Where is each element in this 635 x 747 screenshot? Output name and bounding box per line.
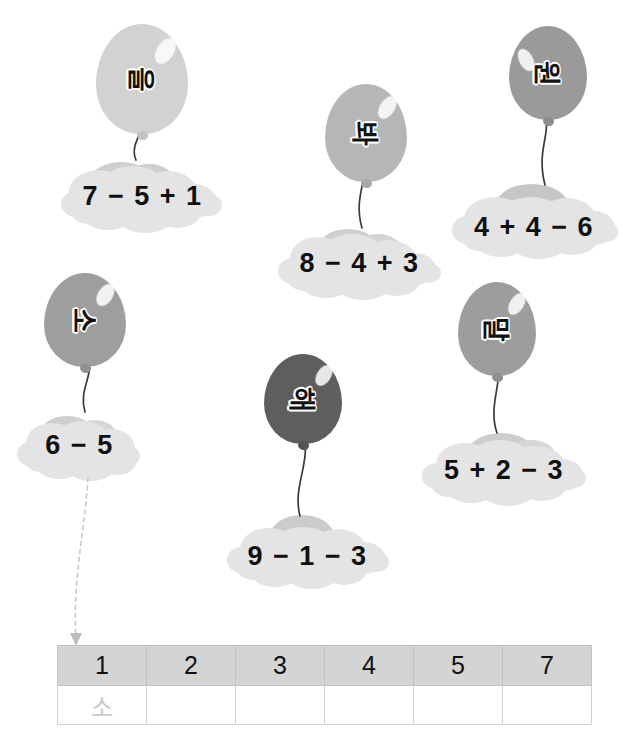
answer-header-cell-6: 7 bbox=[503, 646, 592, 686]
balloon-syllable-hae: 해 bbox=[284, 360, 323, 438]
balloon-knot bbox=[297, 440, 309, 450]
cloud-equation-6-text: 5 + 2 − 3 bbox=[421, 454, 587, 485]
cloud-equation-4-text: 6 − 5 bbox=[19, 430, 140, 461]
balloon-eul[interactable]: 을 bbox=[96, 24, 188, 134]
cloud-equation-2: 8 − 4 + 3 bbox=[278, 225, 441, 301]
answer-cell-1[interactable]: 소 bbox=[58, 686, 147, 725]
balloon-knot bbox=[542, 116, 554, 126]
cloud-equation-1-text: 7 − 5 + 1 bbox=[63, 181, 222, 212]
answer-header-cell-2: 2 bbox=[147, 646, 236, 686]
answer-table-input-row: 소 bbox=[58, 686, 592, 725]
balloon-knot bbox=[79, 363, 91, 373]
balloon-so[interactable]: 소 bbox=[44, 273, 126, 367]
answer-arrow bbox=[70, 478, 88, 646]
cloud-equation-5: 9 − 1 − 3 bbox=[227, 512, 388, 590]
balloon-syllable-mal: 말 bbox=[478, 290, 517, 368]
worksheet-canvas: 7 − 5 + 1 8 − 4 + 3 bbox=[0, 0, 635, 747]
answer-header-cell-4: 4 bbox=[325, 646, 414, 686]
cloud-equation-5-text: 9 − 1 − 3 bbox=[227, 540, 388, 571]
balloon-won[interactable]: 원 bbox=[509, 26, 587, 120]
answer-cell-2[interactable] bbox=[147, 686, 236, 725]
cloud-equation-3-text: 4 + 4 − 6 bbox=[451, 212, 617, 243]
balloon-bwa[interactable]: 봐 bbox=[325, 84, 407, 182]
balloon-syllable-eul: 을 bbox=[123, 33, 162, 125]
answer-header-cell-3: 3 bbox=[236, 646, 325, 686]
cloud-equation-2-text: 8 − 4 + 3 bbox=[278, 248, 441, 279]
balloon-mal[interactable]: 말 bbox=[458, 282, 536, 376]
cloud-equation-3: 4 + 4 − 6 bbox=[451, 182, 617, 260]
balloon-syllable-so: 소 bbox=[66, 279, 105, 361]
answer-cell-5[interactable] bbox=[414, 686, 503, 725]
cloud-equation-6: 5 + 2 − 3 bbox=[421, 430, 587, 506]
answer-header-cell-5: 5 bbox=[414, 646, 503, 686]
answer-header-cell-1: 1 bbox=[58, 646, 147, 686]
cloud-equation-1: 7 − 5 + 1 bbox=[63, 158, 222, 234]
answer-table-header-row: 1 2 3 4 5 7 bbox=[58, 646, 592, 686]
balloon-knot bbox=[136, 130, 148, 140]
balloon-syllable-won: 원 bbox=[529, 34, 568, 112]
cloud-equation-4: 6 − 5 bbox=[19, 410, 140, 483]
balloon-syllable-bwa: 봐 bbox=[347, 92, 386, 174]
answer-cell-6[interactable] bbox=[503, 686, 592, 725]
balloon-knot bbox=[491, 372, 503, 382]
answer-table: 1 2 3 4 5 7 소 bbox=[57, 645, 592, 725]
balloon-knot bbox=[360, 178, 372, 188]
answer-cell-4[interactable] bbox=[325, 686, 414, 725]
answer-cell-3[interactable] bbox=[236, 686, 325, 725]
balloon-hae[interactable]: 해 bbox=[264, 354, 342, 444]
